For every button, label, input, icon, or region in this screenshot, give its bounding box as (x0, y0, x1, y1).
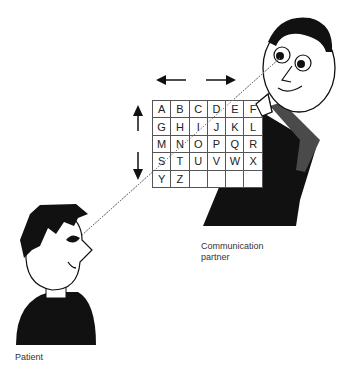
letter-cell: O (190, 136, 208, 153)
letter-cell: K (226, 118, 244, 135)
letter-cell (226, 171, 244, 188)
letter-cell: J (208, 118, 226, 135)
letter-cell: H (171, 118, 189, 135)
letter-cell: C (190, 101, 208, 118)
letter-cell (208, 171, 226, 188)
letter-cell: W (226, 153, 244, 170)
partner-pupil-left (276, 52, 284, 60)
patient-body (16, 292, 96, 345)
letter-cell: A (153, 101, 171, 118)
letter-cell: Q (226, 136, 244, 153)
letter-cell: S (153, 153, 171, 170)
left-arrow (156, 75, 186, 85)
letter-cell: Y (153, 171, 171, 188)
letter-cell (190, 171, 208, 188)
letter-cell: T (171, 153, 189, 170)
letter-cell: P (208, 136, 226, 153)
partner-label-line1: Communication (201, 241, 264, 252)
right-arrow (206, 75, 236, 85)
diagram-canvas (0, 0, 349, 386)
letter-cell: F (244, 101, 262, 118)
letter-cell: D (208, 101, 226, 118)
letter-cell: V (208, 153, 226, 170)
letter-cell: U (190, 153, 208, 170)
letter-cell: G (153, 118, 171, 135)
letter-cell: M (153, 136, 171, 153)
letter-cell: Z (171, 171, 189, 188)
partner-label: Communication partner (201, 241, 264, 263)
letter-cell: N (171, 136, 189, 153)
partner-pupil-right (297, 60, 305, 68)
partner-label-line2: partner (201, 252, 264, 263)
up-arrow (133, 105, 143, 131)
patient-label: Patient (15, 352, 43, 363)
letter-cell: R (244, 136, 262, 153)
letter-board: A B C D E F G H I J K L M N O P Q R S T … (152, 100, 263, 188)
letter-cell: B (171, 101, 189, 118)
down-arrow (133, 152, 143, 180)
letter-cell (244, 171, 262, 188)
letter-cell: I (190, 118, 208, 135)
letter-cell: E (226, 101, 244, 118)
letter-cell: L (244, 118, 262, 135)
letter-cell: X (244, 153, 262, 170)
